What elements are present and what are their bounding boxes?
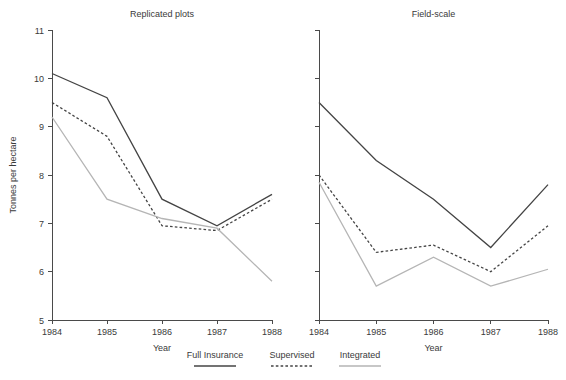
y-tick-label: 10 [34,74,44,84]
chart-figure: Replicated plots567891011198419851986198… [0,0,566,380]
series-line-integrated [319,182,548,286]
x-tick-label: 1988 [538,327,558,337]
series-line-full-insurance [319,103,548,248]
chart-canvas: Replicated plots567891011198419851986198… [0,0,566,380]
x-tick-label: 1985 [97,327,117,337]
panel-title: Replicated plots [130,9,195,19]
y-tick-label: 8 [39,171,44,181]
legend-label-supervised: Supervised [269,350,314,360]
y-tick-label: 9 [39,122,44,132]
y-axis-title: Tonnes per hectare [8,136,18,213]
legend-label-integrated: Integrated [340,350,381,360]
y-tick-label: 11 [35,26,44,36]
chart-legend: Full InsuranceSupervisedIntegrated [187,350,381,366]
x-axis-title: Year [424,343,442,353]
x-tick-label: 1985 [366,327,386,337]
y-tick-label: 5 [39,316,44,326]
panel-title: Field-scale [412,9,456,19]
x-tick-label: 1986 [152,327,172,337]
series-line-full-insurance [52,74,272,226]
panel-replicated-plots: Replicated plots567891011198419851986198… [8,9,282,353]
legend-label-full-insurance: Full Insurance [187,350,244,360]
x-tick-label: 1984 [309,327,329,337]
y-tick-label: 6 [39,267,44,277]
x-tick-label: 1984 [42,327,62,337]
x-tick-label: 1987 [481,327,501,337]
x-tick-label: 1988 [262,327,282,337]
x-tick-label: 1987 [207,327,227,337]
panel-field-scale: Field-scale19841985198619871988Year [309,9,558,353]
x-tick-label: 1986 [423,327,443,337]
x-axis-title: Year [153,343,171,353]
y-tick-label: 7 [39,219,44,229]
